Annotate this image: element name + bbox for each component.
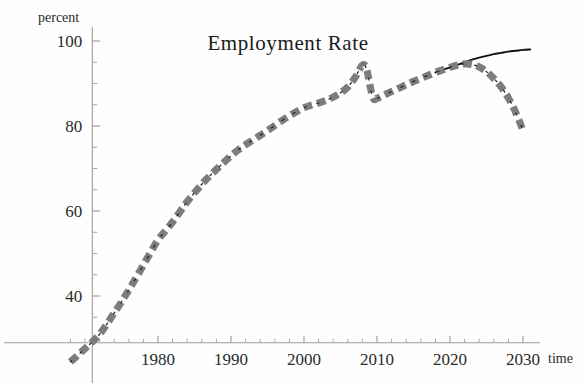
- axes-group: [4, 27, 540, 383]
- y-tick-label: 80: [65, 117, 82, 136]
- data-series-group: [70, 50, 530, 362]
- ticks-group: [70, 41, 523, 343]
- x-axis-label: time: [548, 351, 573, 366]
- x-tick-label: 2010: [360, 350, 394, 369]
- x-tick-label: 2000: [287, 350, 321, 369]
- chart-canvas: 198019902000201020202030406080100 percen…: [0, 0, 586, 387]
- employment-rate-line: [70, 64, 523, 362]
- x-tick-label: 1980: [141, 350, 175, 369]
- x-tick-label: 1990: [214, 350, 248, 369]
- y-tick-label: 60: [65, 202, 82, 221]
- x-tick-label: 2030: [506, 350, 540, 369]
- y-tick-label: 40: [65, 287, 82, 306]
- employment-rate-figure: 198019902000201020202030406080100 percen…: [0, 0, 586, 387]
- y-axis-label: percent: [38, 10, 79, 25]
- y-tick-label: 100: [57, 32, 83, 51]
- x-tick-label: 2020: [433, 350, 467, 369]
- chart-title: Employment Rate: [207, 31, 368, 55]
- tick-labels-group: 198019902000201020202030406080100: [57, 32, 540, 369]
